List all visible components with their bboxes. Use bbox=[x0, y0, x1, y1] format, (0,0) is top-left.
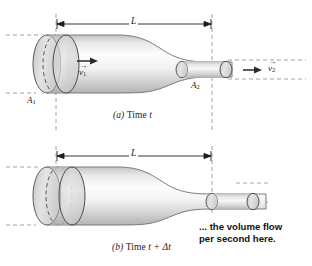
velocity-arrow-v2-a bbox=[243, 66, 262, 73]
dimension-label-L-a: L bbox=[129, 16, 138, 26]
panel-b-caption-prefix: (b) bbox=[112, 242, 123, 252]
volume-flow-annotation: ... the volume flow per second here. bbox=[199, 221, 282, 244]
tube-slug-front-face-a bbox=[220, 61, 232, 77]
panel-a-caption-prefix: (a) bbox=[113, 110, 124, 120]
tube-slug-front-face-b bbox=[247, 193, 259, 209]
slug-front-face-a bbox=[53, 35, 79, 93]
pipe-mouth-ellipse-b bbox=[33, 167, 61, 225]
annotation-line-1: ... the volume flow bbox=[199, 221, 282, 233]
panel-a-caption-var: t bbox=[149, 110, 152, 120]
slug-front-face-b bbox=[59, 167, 85, 225]
panel-b-caption-var: t + Δt bbox=[148, 242, 171, 252]
panel-b-caption-text: Time bbox=[126, 242, 146, 252]
velocity-v1-subscript: 1 bbox=[83, 70, 86, 77]
area-A2-subscript: 2 bbox=[197, 83, 200, 90]
dimension-arrowhead-right-a bbox=[204, 21, 211, 26]
dimension-arrowhead-left-a bbox=[57, 21, 64, 26]
area-A1-subscript: 1 bbox=[33, 98, 36, 105]
panel-b-caption: (b) Time t + Δt bbox=[112, 242, 171, 252]
velocity-label-v2: →v2 bbox=[268, 60, 275, 74]
dimension-arrowhead-left-b bbox=[57, 153, 64, 158]
tube-slug-back-face-a bbox=[176, 61, 188, 77]
fluid-continuity-figure: L →v1 →v2 A1 A2 (a) Time t L (b) Time t … bbox=[0, 0, 312, 266]
dimension-arrowhead-right-b bbox=[204, 153, 211, 158]
panel-a-caption: (a) Time t bbox=[113, 110, 152, 120]
panel-a-graphic bbox=[6, 14, 306, 130]
annotation-line-2: per second here. bbox=[199, 233, 282, 245]
dimension-label-L-b: L bbox=[129, 148, 138, 158]
area-label-A1: A1 bbox=[27, 95, 36, 105]
area-label-A2: A2 bbox=[191, 80, 200, 90]
velocity-v2-subscript: 2 bbox=[272, 66, 275, 73]
velocity-label-v1: →v1 bbox=[79, 64, 86, 78]
panel-a-caption-text: Time bbox=[127, 110, 147, 120]
tube-slug-back-face-b bbox=[206, 193, 218, 209]
